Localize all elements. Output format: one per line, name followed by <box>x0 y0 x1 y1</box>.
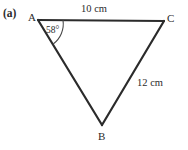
triangle-figure: (a) A C B 10 cm 12 cm 58° <box>0 0 188 150</box>
side-ac-line <box>38 20 164 21</box>
side-length-bc-label: 12 cm <box>137 78 163 89</box>
vertex-label-a: A <box>28 12 36 23</box>
side-bc-line <box>102 21 164 125</box>
part-label: (a) <box>3 8 16 20</box>
side-ab-line <box>38 20 102 125</box>
vertex-label-b: B <box>98 131 105 142</box>
side-length-ac-label: 10 cm <box>81 4 107 15</box>
vertex-label-c: C <box>167 13 174 24</box>
angle-measure-a-label: 58° <box>46 26 59 36</box>
